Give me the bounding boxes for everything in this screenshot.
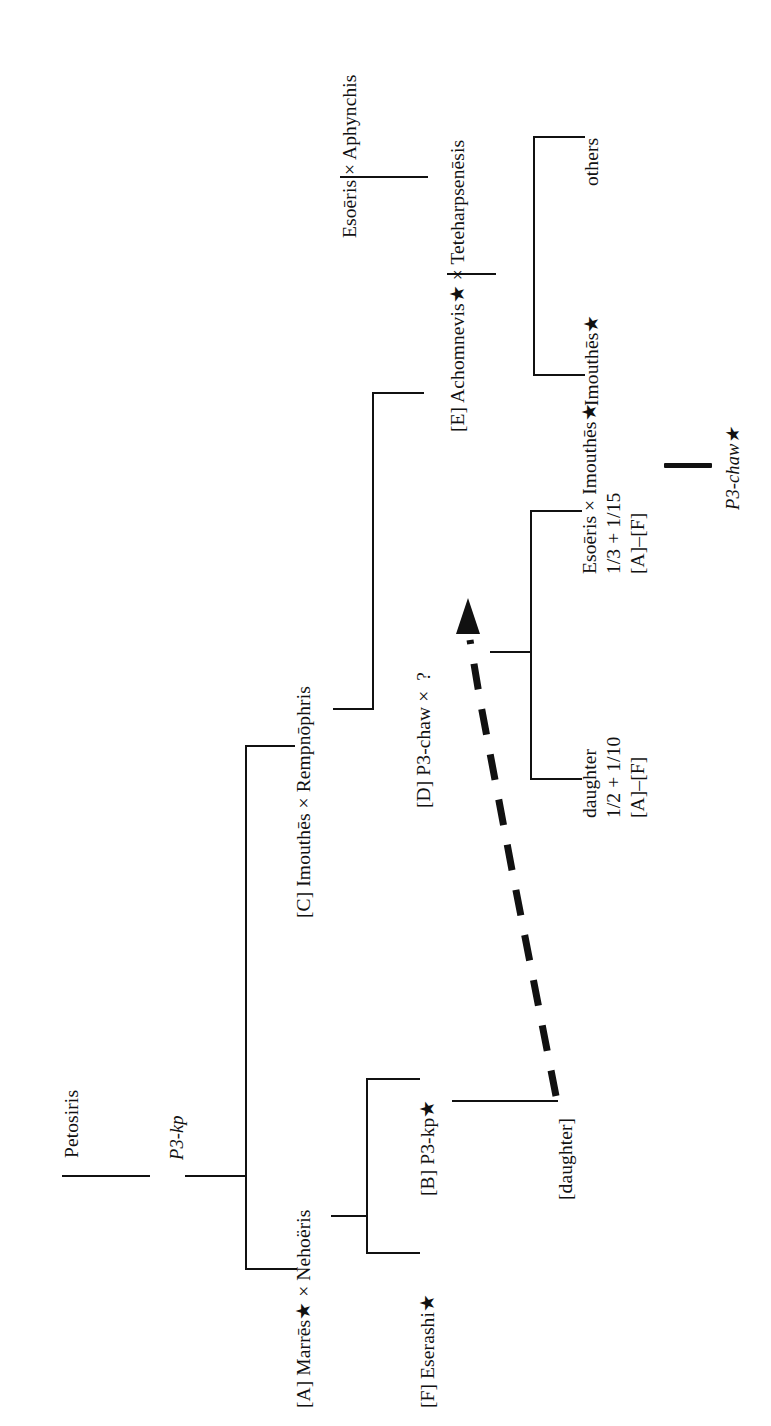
line-to-p3kp-b: [366, 1078, 420, 1080]
node-others: others: [580, 138, 604, 186]
arrow-head-icon: [456, 598, 480, 634]
node-imouthes-star: Imouthēs★: [580, 315, 604, 406]
line-marres-children-vertical: [366, 1078, 368, 1254]
node-marres-nehoeris: [A] Marrēs★ × Nehoëris: [292, 1209, 316, 1408]
marriage-symbol: [413, 702, 434, 707]
line-marres-to-children-bracket: [331, 1215, 368, 1217]
node-daughter-share-name: daughter: [578, 749, 602, 818]
family-tree-diagram: Petosiris P3-kp [A] Marrēs★ × Nehoëris […: [0, 0, 771, 1426]
line-p3kp-to-main-trunk: [185, 1175, 247, 1177]
node-esoeris-imouthes-range: [A]–[F]: [626, 513, 650, 574]
line-p3chaw-d-to-children: [490, 651, 532, 653]
line-p3chaw-children-vertical: [530, 510, 532, 780]
line-to-eserashi: [366, 1252, 420, 1254]
node-daughter-share-fraction: 1/2 + 1/10: [602, 737, 626, 818]
node-p3chaw-d-label: [D] P3-chaw: [413, 707, 434, 808]
node-imouthes-rempnophris: [C] Imouthēs × Rempnōphris: [292, 686, 316, 918]
dashed-identification-connector: [0, 0, 771, 1426]
line-main-trunk-vertical: [245, 745, 247, 1270]
line-p3kp-b-to-daughter: [452, 1100, 558, 1102]
line-trunk-to-marres-nehoeris: [245, 1268, 297, 1270]
node-eserashi: [F] Eserashi★: [416, 1294, 440, 1408]
node-esoeris-imouthes: Esoēris × Imouthēs★: [578, 403, 602, 574]
line-trunk-to-imouthes-rempnophris: [245, 745, 295, 747]
node-p3chaw-d: [D] P3-chaw × ?: [412, 672, 436, 808]
node-petosiris: Petosiris: [60, 1090, 84, 1158]
line-petosiris-to-p3kp: [62, 1175, 150, 1177]
node-p3kp-b-prefix: [B] P3-kp★: [417, 1100, 438, 1196]
line-p3chaw-star-marker: [664, 463, 712, 468]
line-imouthes-children-vertical: [372, 392, 374, 710]
line-to-daughter-share: [530, 778, 582, 780]
node-daughter-share-range: [A]–[F]: [626, 757, 650, 818]
line-to-achomnevis: [372, 392, 424, 394]
line-achomnevis-children-vertical: [533, 136, 535, 376]
node-esoeris-aphynchis: Esoēris × Aphynchis: [338, 75, 362, 238]
line-to-imouthes-star: [533, 374, 585, 376]
line-to-p3chaw-d: [333, 708, 374, 710]
spacer: [413, 681, 434, 691]
node-daughter-bracket: [daughter]: [554, 1118, 578, 1200]
node-p3chaw-d-spouse-unknown: ?: [413, 672, 434, 681]
node-p3chaw-d-marriage-symbol: ×: [413, 691, 434, 702]
node-esoeris-imouthes-fraction: 1/3 + 1/15: [602, 493, 626, 574]
node-achomnevis-teteharpsenesis: [E] Achomnevis★ × Teteharpsenēsis: [446, 140, 470, 432]
node-p3chaw-star: P3-chaw★: [722, 426, 745, 510]
line-to-others: [533, 136, 585, 138]
line-to-esoeris-imouthes: [530, 510, 582, 512]
dashed-line-path: [470, 640, 556, 1096]
node-p3kp-patronym: P3-kp: [166, 1115, 189, 1160]
node-p3kp-b: [B] P3-kp★: [416, 1100, 440, 1196]
